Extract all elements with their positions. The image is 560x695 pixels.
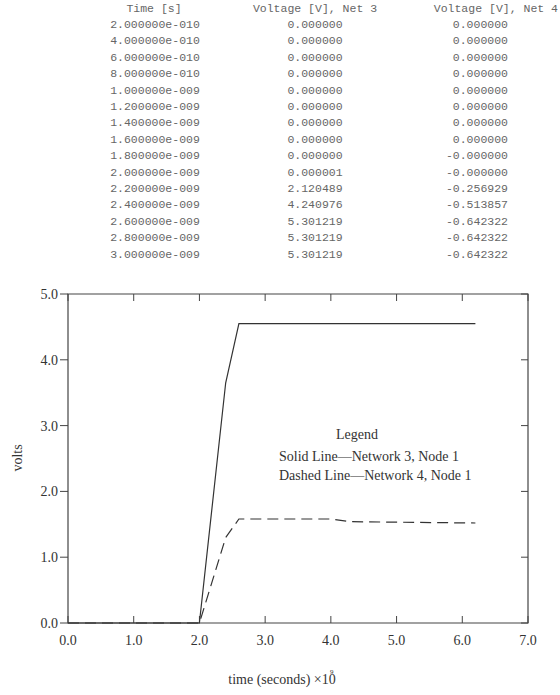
x-tick-label: 7.0: [519, 633, 537, 648]
x-tick-label: 4.0: [322, 633, 340, 648]
x-tick-label: 1.0: [125, 633, 143, 648]
y-tick-label: 3.0: [41, 419, 59, 434]
x-tick-label: 2.0: [191, 633, 209, 648]
x-tick-label: 6.0: [454, 633, 472, 648]
x-tick-label: 5.0: [388, 633, 406, 648]
dashed-line-network-4: [68, 519, 475, 623]
y-axis-label: volts: [10, 444, 25, 471]
voltage-chart: 0.01.02.03.04.05.06.07.00.01.02.03.04.05…: [0, 0, 560, 695]
y-tick-label: 1.0: [41, 550, 59, 565]
legend: LegendSolid Line—Network 3, Node 1Dashed…: [279, 427, 471, 483]
y-tick-label: 2.0: [41, 484, 59, 499]
y-tick-label: 0.0: [41, 616, 59, 631]
y-tick-label: 4.0: [41, 353, 59, 368]
legend-entry: Solid Line—Network 3, Node 1: [279, 449, 459, 464]
x-tick-label: 3.0: [256, 633, 274, 648]
x-axis-label: time (seconds) ×10: [228, 672, 335, 688]
legend-entry: Dashed Line—Network 4, Node 1: [279, 468, 471, 483]
y-tick-label: 5.0: [41, 287, 59, 302]
x-tick-label: 0.0: [59, 633, 77, 648]
x-axis-exponent: 9: [330, 668, 334, 676]
legend-title: Legend: [336, 427, 378, 442]
